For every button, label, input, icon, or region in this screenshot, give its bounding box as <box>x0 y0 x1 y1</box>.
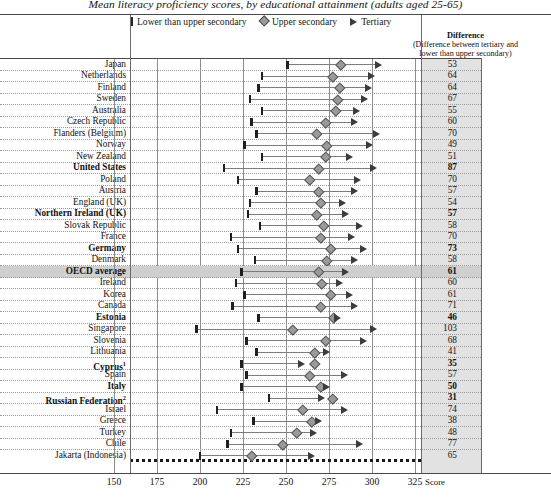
table-row <box>130 358 421 370</box>
marker-upper-secondary <box>313 163 324 174</box>
difference-value: 58 <box>421 220 457 232</box>
table-row <box>130 427 421 439</box>
country-label-row: England (UK) <box>0 197 130 209</box>
marker-lower-than-upper-secondary <box>240 360 243 368</box>
plot-diff-divider <box>421 58 422 474</box>
country-label: Sweden <box>97 93 126 105</box>
difference-value: 60 <box>421 277 457 289</box>
range-connector <box>260 225 360 226</box>
country-label-row: Cyprus1 <box>0 358 130 370</box>
difference-row: 71 <box>421 301 481 313</box>
marker-tertiary <box>375 61 382 69</box>
difference-value: 71 <box>421 300 457 312</box>
difference-row: 60 <box>421 117 481 129</box>
table-row <box>130 209 421 221</box>
gridline-150 <box>114 59 115 473</box>
difference-row: 67 <box>421 94 481 106</box>
difference-value: 38 <box>421 415 457 427</box>
country-label: Jakarta (Indonesia) <box>55 450 126 462</box>
marker-upper-secondary <box>315 198 326 209</box>
marker-lower-than-upper-secondary <box>261 153 264 161</box>
difference-row: 70 <box>421 174 481 186</box>
marker-tertiary <box>323 383 330 391</box>
country-label: Ireland <box>100 277 126 289</box>
difference-row: 57 <box>421 186 481 198</box>
marker-lower-than-upper-secondary <box>255 348 258 356</box>
country-label: Norway <box>96 139 126 151</box>
marker-tertiary <box>315 417 322 425</box>
table-row <box>130 289 421 301</box>
marker-tertiary <box>351 256 358 264</box>
table-row <box>130 404 421 416</box>
country-label: Italy <box>107 381 126 393</box>
marker-tertiary <box>366 141 373 149</box>
country-label: Germany <box>88 243 126 255</box>
country-label: Finland <box>98 82 126 94</box>
country-label-row: Singapore <box>0 324 130 336</box>
range-connector <box>233 306 355 307</box>
country-label: United States <box>73 162 126 174</box>
country-label-row: Canada <box>0 301 130 313</box>
legend: Lower than upper secondaryUpper secondar… <box>0 14 551 28</box>
difference-row: 64 <box>421 82 481 94</box>
country-label: Estonia <box>96 312 126 324</box>
marker-tertiary <box>351 302 358 310</box>
marker-lower-than-upper-secondary <box>261 107 264 115</box>
marker-upper-secondary <box>305 370 316 381</box>
difference-value: 70 <box>421 174 457 186</box>
range-connector <box>262 156 350 157</box>
difference-row: 73 <box>421 243 481 255</box>
difference-row: 61 <box>421 266 481 278</box>
marker-tertiary <box>308 452 315 460</box>
country-label: Turkey <box>99 427 126 439</box>
range-connector <box>217 409 344 410</box>
marker-lower-than-upper-secondary <box>240 383 243 391</box>
range-connector <box>246 340 363 341</box>
marker-tertiary <box>365 84 372 92</box>
difference-value: 77 <box>421 438 457 450</box>
difference-value: 49 <box>421 139 457 151</box>
difference-row: 35 <box>421 358 481 370</box>
country-label: Flanders (Belgium) <box>53 128 126 140</box>
marker-lower-than-upper-secondary <box>237 245 240 253</box>
country-label-row: Turkey <box>0 427 130 439</box>
country-label-row: Lithuania <box>0 347 130 359</box>
difference-value: 55 <box>421 105 457 117</box>
country-label: Lithuania <box>90 346 126 358</box>
table-row <box>130 381 421 393</box>
difference-row: 41 <box>421 347 481 359</box>
marker-lower-than-upper-secondary <box>243 141 246 149</box>
marker-lower-than-upper-secondary <box>249 95 252 103</box>
x-tick-275: 275 <box>309 476 349 487</box>
marker-tertiary <box>370 164 377 172</box>
x-axis: Score 150175200225250275300325 <box>0 474 551 501</box>
marker-tertiary <box>373 130 380 138</box>
country-label: Canada <box>98 300 126 312</box>
difference-row: 60 <box>421 278 481 290</box>
marker-tertiary <box>342 268 349 276</box>
marker-tertiary <box>323 348 330 356</box>
country-label: Australia <box>92 105 126 117</box>
legend-item-low: Lower than upper secondary <box>130 16 247 27</box>
country-label-row: Italy <box>0 381 130 393</box>
difference-row: 50 <box>421 381 481 393</box>
table-row <box>130 243 421 255</box>
marker-lower-than-upper-secondary <box>226 440 229 448</box>
marker-tertiary <box>298 360 305 368</box>
marker-tertiary <box>318 394 325 402</box>
difference-row: 55 <box>421 105 481 117</box>
marker-tertiary <box>354 176 361 184</box>
range-connector <box>246 375 344 376</box>
marker-lower-than-upper-secondary <box>257 314 260 322</box>
marker-tertiary <box>348 233 355 241</box>
legend-item-high: Tertiary <box>350 16 391 27</box>
diff-right-divider <box>481 58 482 474</box>
marker-tertiary <box>341 406 348 414</box>
country-label-row: OECD average <box>0 266 130 278</box>
legend-top-rule <box>0 14 551 15</box>
country-label-row: Norway <box>0 140 130 152</box>
marker-tertiary <box>310 429 317 437</box>
marker-tertiary <box>360 337 367 345</box>
difference-row: 103 <box>421 324 481 336</box>
table-row <box>130 255 421 267</box>
